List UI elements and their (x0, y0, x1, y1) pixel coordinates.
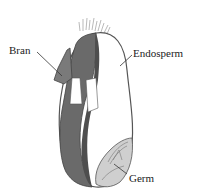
bran-leader-line (37, 52, 62, 76)
bran-flap (54, 48, 72, 84)
kernel-hairs (79, 18, 110, 34)
bran-label: Bran (9, 45, 30, 56)
cutaway-window-1 (70, 78, 82, 104)
germ-label: Germ (129, 173, 154, 184)
wheat-kernel-illustration (0, 0, 201, 196)
endosperm-label: Endosperm (133, 48, 183, 59)
cutaway-window-2 (86, 78, 98, 112)
